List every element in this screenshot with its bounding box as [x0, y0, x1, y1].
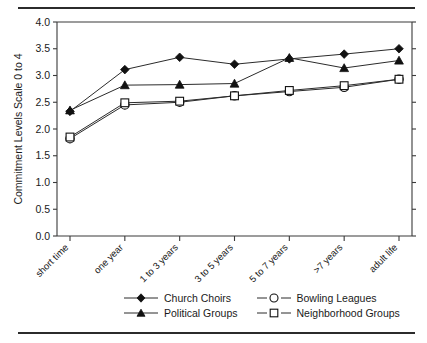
y-tick-label: 1.0 [35, 176, 50, 188]
y-tick-label: 0.5 [35, 203, 50, 215]
x-tick-label: 3 to 5 years [192, 241, 235, 284]
legend-label: Bowling Leagues [297, 292, 377, 304]
data-point [176, 97, 184, 105]
legend-item-bowling-leagues: Bowling Leagues [238, 292, 415, 304]
x-tick-label: >7 years [311, 241, 345, 275]
data-point [230, 60, 239, 69]
open-square-icon [256, 307, 292, 319]
data-point [340, 50, 349, 59]
figure-container: 0.00.51.01.52.02.53.03.54.0 short timeon… [0, 0, 427, 343]
filled-triangle-icon [123, 307, 159, 319]
x-tick-label: adult life [367, 242, 400, 275]
data-point [340, 82, 348, 90]
legend-item-political-groups: Political Groups [18, 307, 238, 319]
legend-label: Political Groups [164, 307, 238, 319]
data-point [121, 99, 129, 107]
y-tick-label: 4.0 [35, 16, 50, 28]
y-tick-label: 3.0 [35, 69, 50, 81]
y-axis-title-text: Commitment Levels Scale 0 to 4 [12, 53, 24, 204]
legend-item-neighborhood-groups: Neighborhood Groups [238, 307, 415, 319]
x-tick-label: short time [33, 242, 70, 279]
data-point [175, 53, 184, 62]
y-tick-label: 3.5 [35, 42, 50, 54]
data-point [395, 75, 403, 83]
filled-diamond-icon [123, 292, 159, 304]
data-series-group [66, 44, 404, 142]
y-tick-label: 0.0 [35, 230, 50, 242]
data-point [231, 92, 239, 100]
y-tick-label: 1.5 [35, 149, 50, 161]
chart-legend: Church Choirs Bowling Leagues Political … [18, 292, 415, 319]
x-tick-label: 1 to 3 years [137, 241, 180, 284]
data-point [121, 65, 130, 74]
y-tick-label: 2.5 [35, 96, 50, 108]
x-tick-label: 5 to 7 years [247, 241, 290, 284]
open-circle-icon [256, 292, 292, 304]
y-axis: 0.00.51.01.52.02.53.03.54.0 [35, 16, 416, 242]
x-axis: short timeone year1 to 3 years3 to 5 yea… [33, 236, 412, 285]
y-axis-title: Commitment Levels Scale 0 to 4 [12, 53, 24, 204]
y-tick-label: 2.0 [35, 123, 50, 135]
legend-item-church-choirs: Church Choirs [18, 292, 238, 304]
data-point [395, 56, 404, 64]
data-point [395, 44, 404, 53]
legend-label: Church Choirs [164, 292, 231, 304]
x-tick-label: one year [91, 242, 125, 276]
data-point [285, 87, 293, 95]
data-point [66, 133, 74, 141]
legend-label: Neighborhood Groups [297, 307, 400, 319]
